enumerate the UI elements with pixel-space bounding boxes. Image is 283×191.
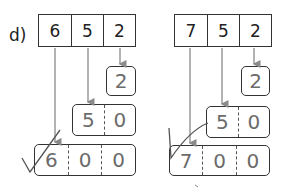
check-mark-icon <box>169 123 208 158</box>
check-mark-icon <box>22 130 60 172</box>
arrow-lines <box>0 0 283 191</box>
